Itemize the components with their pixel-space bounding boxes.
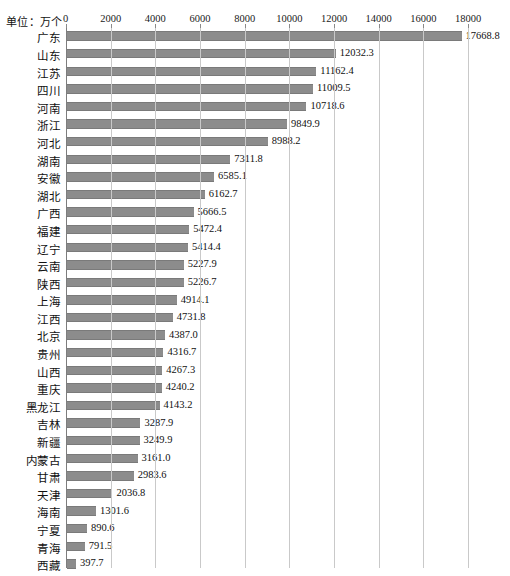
bar-广西[interactable] — [67, 207, 194, 216]
category-row: 内蒙古 — [0, 450, 64, 468]
bar-北京[interactable] — [67, 330, 165, 339]
bar-row: 397.7 — [66, 556, 468, 574]
bar-row: 4267.3 — [66, 362, 468, 380]
bar-value-label: 4914.1 — [181, 294, 210, 305]
category-row: 青海 — [0, 538, 64, 556]
bar-福建[interactable] — [67, 225, 189, 234]
bar-value-label: 4316.7 — [167, 346, 196, 357]
bar-value-label: 791.5 — [89, 540, 113, 551]
bar-陕西[interactable] — [67, 278, 184, 287]
bar-value-label: 3249.9 — [144, 434, 173, 445]
bar-row: 11162.4 — [66, 63, 468, 81]
bar-湖南[interactable] — [67, 155, 230, 164]
bar-value-label: 9849.9 — [291, 118, 320, 129]
bar-四川[interactable] — [67, 84, 313, 93]
category-row: 湖南 — [0, 151, 64, 169]
bar-河南[interactable] — [67, 102, 306, 111]
category-row: 云南 — [0, 257, 64, 275]
category-row: 河南 — [0, 98, 64, 116]
bar-value-label: 7311.8 — [234, 153, 263, 164]
bar-内蒙古[interactable] — [67, 454, 138, 463]
x-tick-label-14000: 14000 — [366, 13, 392, 24]
bar-浙江[interactable] — [67, 119, 287, 128]
bar-row: 2983.6 — [66, 468, 468, 486]
bar-山西[interactable] — [67, 366, 162, 375]
bar-吉林[interactable] — [67, 418, 140, 427]
bar-云南[interactable] — [67, 260, 184, 269]
category-row: 西藏 — [0, 556, 64, 574]
bar-山东[interactable] — [67, 49, 336, 58]
bar-row: 8988.2 — [66, 134, 468, 152]
category-label-重庆: 重庆 — [37, 381, 60, 397]
x-tick-label-2000: 2000 — [100, 13, 121, 24]
bar-value-label: 12032.3 — [340, 47, 374, 58]
bar-row: 17668.8 — [66, 28, 468, 46]
bar-上海[interactable] — [67, 295, 177, 304]
category-row: 重庆 — [0, 380, 64, 398]
category-row: 宁夏 — [0, 521, 64, 539]
bar-row: 3287.9 — [66, 415, 468, 433]
category-row: 四川 — [0, 81, 64, 99]
category-label-贵州: 贵州 — [37, 346, 60, 362]
bar-海南[interactable] — [67, 506, 96, 515]
category-row: 辽宁 — [0, 239, 64, 257]
category-label-江西: 江西 — [37, 311, 60, 327]
category-row: 江西 — [0, 310, 64, 328]
bar-row: 4731.8 — [66, 310, 468, 328]
category-row: 湖北 — [0, 186, 64, 204]
bar-value-label: 11162.4 — [320, 65, 353, 76]
bar-row: 7311.8 — [66, 151, 468, 169]
bar-row: 6585.1 — [66, 169, 468, 187]
x-tickmark-16000 — [423, 24, 424, 28]
bar-辽宁[interactable] — [67, 243, 188, 252]
category-row: 广东 — [0, 28, 64, 46]
bar-湖北[interactable] — [67, 190, 205, 199]
category-row: 吉林 — [0, 415, 64, 433]
category-row: 山西 — [0, 362, 64, 380]
category-label-甘肃: 甘肃 — [37, 469, 60, 485]
x-tickmark-8000 — [245, 24, 246, 28]
bar-row: 2036.8 — [66, 485, 468, 503]
bar-贵州[interactable] — [67, 348, 163, 357]
category-label-海南: 海南 — [37, 504, 60, 520]
bar-黑龙江[interactable] — [67, 401, 160, 410]
bar-value-label: 17668.8 — [466, 30, 500, 41]
gridline-2000 — [111, 28, 112, 568]
bar-河北[interactable] — [67, 137, 268, 146]
bar-江苏[interactable] — [67, 67, 316, 76]
category-row: 北京 — [0, 327, 64, 345]
bar-西藏[interactable] — [67, 559, 76, 568]
bar-value-label: 5666.5 — [198, 206, 227, 217]
category-row: 江苏 — [0, 63, 64, 81]
bar-广东[interactable] — [67, 31, 462, 40]
category-label-北京: 北京 — [37, 328, 60, 344]
bar-新疆[interactable] — [67, 436, 140, 445]
bar-row: 10718.6 — [66, 98, 468, 116]
category-label-湖北: 湖北 — [37, 188, 60, 204]
bar-rows: 17668.812032.311162.411009.510718.69849.… — [66, 28, 468, 573]
x-tickmark-12000 — [334, 24, 335, 28]
category-row: 陕西 — [0, 274, 64, 292]
bar-value-label: 10718.6 — [310, 100, 344, 111]
category-label-天津: 天津 — [37, 487, 60, 503]
bar-江西[interactable] — [67, 313, 173, 322]
bar-重庆[interactable] — [67, 383, 162, 392]
bar-安徽[interactable] — [67, 172, 214, 181]
category-row: 甘肃 — [0, 468, 64, 486]
bar-宁夏[interactable] — [67, 524, 87, 533]
category-label-青海: 青海 — [37, 540, 60, 556]
category-row: 新疆 — [0, 433, 64, 451]
bar-甘肃[interactable] — [67, 471, 134, 480]
category-row: 浙江 — [0, 116, 64, 134]
category-row: 海南 — [0, 503, 64, 521]
category-label-河北: 河北 — [37, 135, 60, 151]
bar-row: 4240.2 — [66, 380, 468, 398]
category-row: 贵州 — [0, 345, 64, 363]
bar-青海[interactable] — [67, 542, 85, 551]
bar-天津[interactable] — [67, 489, 112, 498]
category-label-江苏: 江苏 — [37, 65, 60, 81]
category-label-宁夏: 宁夏 — [37, 522, 60, 538]
gridline-16000 — [423, 28, 424, 568]
bar-value-label: 6585.1 — [218, 170, 247, 181]
x-tickmark-2000 — [111, 24, 112, 28]
